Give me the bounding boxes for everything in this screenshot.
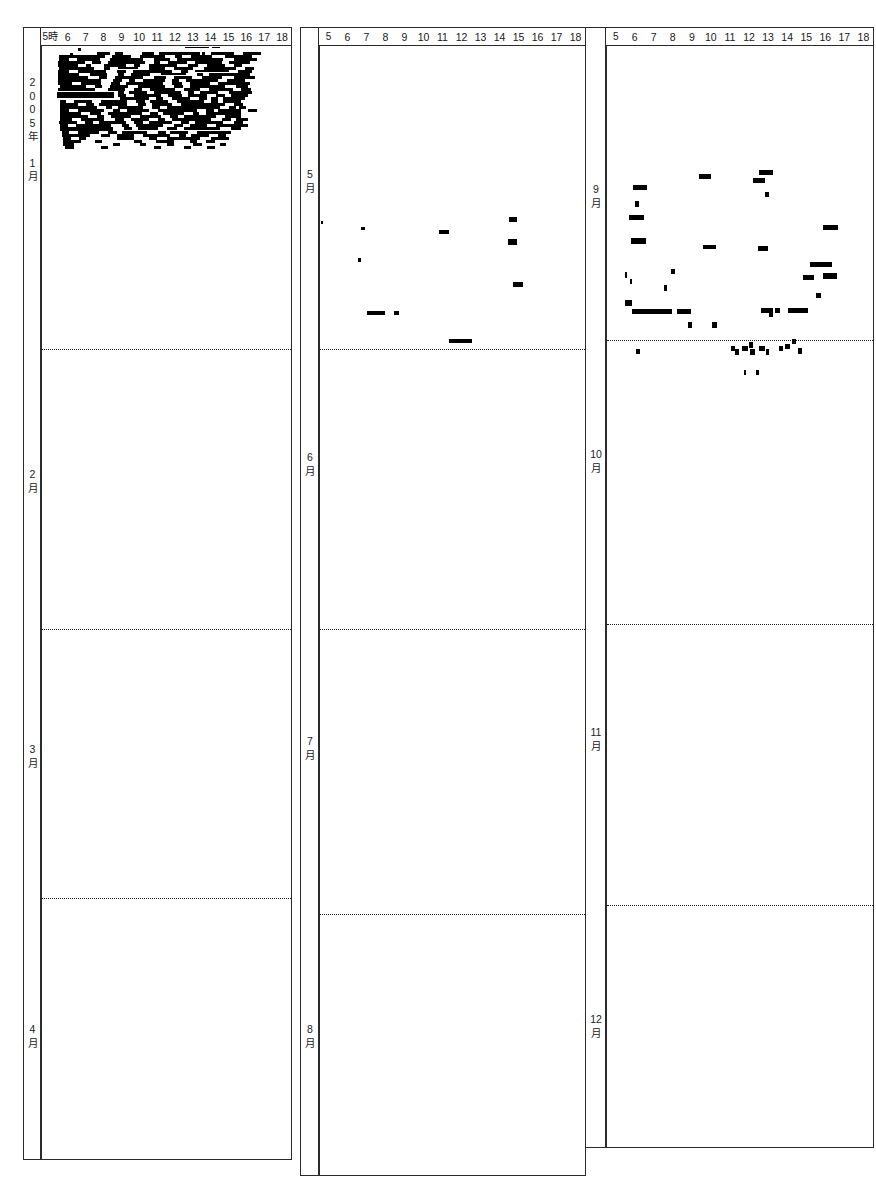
activity-mark: [92, 61, 101, 63]
activity-mark: [206, 140, 215, 142]
activity-mark: [699, 174, 711, 179]
activity-mark: [742, 346, 748, 351]
activity-mark: [688, 322, 692, 328]
hour-tick-15: 15: [220, 28, 238, 45]
activity-mark: [367, 311, 385, 316]
hour-tick-12: 12: [740, 28, 759, 45]
hour-tick-12: 12: [166, 28, 184, 45]
month-label-2005-jan: 2 0 0 5 年 1 月: [24, 76, 41, 184]
month-label-jul: 7 月: [301, 735, 319, 762]
hour-tick-13: 13: [471, 28, 490, 45]
activity-mark: [193, 143, 202, 145]
activity-mark: [65, 146, 74, 148]
activity-mark: [731, 346, 735, 351]
activity-mark: [60, 127, 113, 130]
activity-mark: [671, 269, 675, 274]
activity-mark: [633, 185, 647, 190]
activity-mark: [630, 279, 633, 284]
hour-tick-5: 5: [606, 28, 625, 45]
activity-mark: [361, 227, 365, 230]
activity-mark: [735, 349, 739, 355]
activity-mark: [113, 143, 120, 145]
hour-tick-5: 5時: [41, 28, 59, 45]
hour-tick-6: 6: [625, 28, 644, 45]
panel1-plot-area: [41, 46, 291, 1159]
hour-tick-11: 11: [433, 28, 452, 45]
hour-tick-9: 9: [112, 28, 130, 45]
hour-tick-14: 14: [778, 28, 797, 45]
hour-tick-14: 14: [490, 28, 509, 45]
panel3-plot-area: [606, 46, 873, 1147]
hour-tick-18: 18: [566, 28, 585, 45]
hour-tick-8: 8: [376, 28, 395, 45]
month-label-aug: 8 月: [301, 1023, 319, 1050]
hour-tick-16: 16: [816, 28, 835, 45]
activity-mark: [106, 106, 112, 108]
label-gap: [24, 144, 41, 157]
hour-tick-7: 7: [357, 28, 376, 45]
activity-mark: [631, 238, 646, 244]
activity-mark: [625, 272, 627, 278]
month-label-oct: 10 月: [586, 448, 606, 475]
activity-mark: [95, 140, 102, 143]
activity-mark: [185, 47, 209, 49]
activity-mark: [509, 217, 517, 222]
activity-mark: [766, 349, 770, 355]
activity-mark: [765, 192, 770, 198]
activity-mark: [632, 309, 672, 314]
activity-mark: [231, 127, 242, 130]
panel1-sep-feb-mar: [42, 629, 291, 630]
activity-mark: [636, 349, 640, 355]
panel2-hour-axis: 56789101112131415161718: [319, 28, 585, 46]
activity-mark: [823, 273, 837, 279]
hour-tick-5: 5: [319, 28, 338, 45]
activity-mark: [101, 146, 108, 148]
activity-mark: [625, 300, 632, 306]
activity-mark: [744, 370, 747, 375]
activity-mark: [138, 127, 158, 130]
activity-mark: [712, 322, 717, 328]
activity-mark: [58, 88, 95, 91]
panel1-sep-jan-feb: [42, 349, 291, 350]
activity-mark: [664, 285, 667, 291]
activity-mark: [57, 92, 114, 98]
activity-mark: [775, 308, 780, 313]
activity-mark: [184, 127, 220, 130]
activity-mark: [759, 346, 765, 351]
activity-mark: [220, 143, 226, 145]
activity-mark: [124, 127, 132, 130]
hour-tick-10: 10: [130, 28, 148, 45]
activity-mark: [635, 201, 639, 207]
hour-tick-16: 16: [528, 28, 547, 45]
panel3-marks-layer: [607, 46, 873, 1147]
panel3-sep-oct-nov: [607, 624, 873, 625]
month-label-nov: 11 月: [586, 726, 606, 753]
activity-mark: [358, 258, 361, 263]
hour-tick-7: 7: [644, 28, 663, 45]
activity-mark: [439, 230, 449, 234]
panel-may-aug: 56789101112131415161718 5 月 6 月 7 月 8 月: [300, 27, 586, 1176]
hour-tick-6: 6: [338, 28, 357, 45]
activity-mark: [750, 349, 754, 355]
panel2-marks-layer: [320, 46, 585, 1175]
panel2-sep-jul-aug: [320, 914, 585, 915]
hour-tick-12: 12: [452, 28, 471, 45]
month-label-feb: 2 月: [24, 468, 41, 495]
activity-mark: [769, 312, 773, 317]
month-label-mar: 3 月: [24, 743, 41, 770]
activity-mark: [78, 48, 80, 50]
activity-mark: [508, 239, 517, 245]
activity-mark: [394, 311, 399, 316]
activity-mark: [167, 127, 178, 130]
activity-mark: [140, 143, 146, 145]
activity-mark: [154, 146, 161, 148]
panel1-hour-axis: 5時6789101112131415161718: [41, 28, 291, 46]
hour-tick-14: 14: [202, 28, 220, 45]
activity-mark: [758, 246, 768, 251]
panel3-sep-nov-dec: [607, 905, 873, 906]
activity-mark: [513, 282, 522, 287]
hour-tick-13: 13: [759, 28, 778, 45]
panel2-sep-may-jun: [320, 349, 585, 350]
activity-mark: [779, 346, 783, 351]
hour-tick-18: 18: [273, 28, 291, 45]
